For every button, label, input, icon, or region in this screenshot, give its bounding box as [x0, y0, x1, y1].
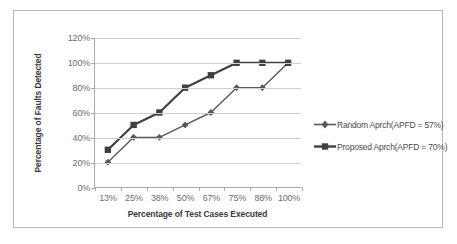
- y-axis-tick: [91, 88, 95, 89]
- x-axis-tick: [121, 187, 122, 191]
- data-point[interactable]: [130, 122, 136, 128]
- x-axis-tick: [147, 187, 148, 191]
- y-axis-tick-label: 80%: [73, 83, 90, 93]
- x-axis-tick-label: 100%: [278, 193, 300, 203]
- legend-item-proposed[interactable]: Proposed Aprch(APFD = 70%): [314, 138, 449, 155]
- y-axis-tick: [91, 63, 95, 64]
- y-axis-tick: [91, 163, 95, 164]
- y-axis-tick-label: 120%: [68, 33, 90, 43]
- x-axis-tick: [224, 187, 225, 191]
- gridline: [95, 163, 301, 164]
- x-axis-tick: [199, 187, 200, 191]
- x-axis-tick: [302, 187, 303, 191]
- legend-marker-diamond-icon: [314, 119, 336, 130]
- plot-area: 0%20%40%60%80%100%120%13%25%38%50%67%75%…: [94, 38, 301, 188]
- chart-legend: Random Aprch(APFD = 57%) Proposed Aprch(…: [314, 116, 449, 160]
- x-axis-tick: [173, 187, 174, 191]
- x-axis-tick-label: 25%: [125, 193, 142, 203]
- gridline: [95, 63, 301, 64]
- x-axis-tick: [95, 187, 96, 191]
- x-axis-tick-label: 88%: [254, 193, 271, 203]
- x-axis-tick-label: 75%: [229, 193, 246, 203]
- x-axis-tick: [276, 187, 277, 191]
- y-axis-title: Percentage of Faults Detected: [32, 38, 44, 188]
- series-line-proposed: [108, 63, 288, 150]
- legend-label-proposed: Proposed Aprch(APFD = 70%): [337, 142, 447, 152]
- y-axis-tick: [91, 38, 95, 39]
- data-point[interactable]: [182, 122, 189, 129]
- data-point[interactable]: [105, 147, 111, 153]
- x-axis-tick: [250, 187, 251, 191]
- data-point[interactable]: [208, 72, 214, 78]
- y-axis-tick-label: 60%: [73, 108, 90, 118]
- legend-item-random[interactable]: Random Aprch(APFD = 57%): [314, 116, 449, 133]
- chart-frame: Percentage of Faults Detected Percentage…: [13, 10, 443, 228]
- x-axis-title: Percentage of Test Cases Executed: [94, 209, 301, 219]
- gridline: [95, 113, 301, 114]
- x-axis-tick-label: 67%: [203, 193, 220, 203]
- x-axis-tick-label: 38%: [151, 193, 168, 203]
- y-axis-tick: [91, 138, 95, 139]
- y-axis-tick-label: 100%: [68, 58, 90, 68]
- x-axis-tick-label: 50%: [177, 193, 194, 203]
- gridline: [95, 38, 301, 39]
- gridline: [95, 138, 301, 139]
- legend-marker-square-icon: [314, 141, 336, 152]
- x-axis-tick-label: 13%: [99, 193, 116, 203]
- y-axis-tick-label: 40%: [73, 133, 90, 143]
- y-axis-tick: [91, 113, 95, 114]
- y-axis-tick-label: 0%: [77, 183, 90, 193]
- y-axis-tick-label: 20%: [73, 158, 90, 168]
- gridline: [95, 88, 301, 89]
- legend-label-random: Random Aprch(APFD = 57%): [337, 120, 443, 130]
